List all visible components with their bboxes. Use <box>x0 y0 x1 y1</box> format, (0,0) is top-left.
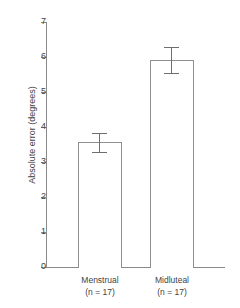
bar-chart: Absolute error (degrees) 7 6 5 4 3 2 1 0 <box>0 0 240 308</box>
y-tick-3: 3 <box>0 162 46 163</box>
y-tick-label-7: 7 <box>10 17 46 26</box>
error-bar-cap-lower-menstrual <box>92 152 107 153</box>
x-axis-line <box>46 267 225 268</box>
y-tick-1: 1 <box>0 232 46 233</box>
y-tick-label-5: 5 <box>10 87 46 96</box>
error-bar-stem-midluteal <box>171 47 172 74</box>
y-tick-2: 2 <box>0 197 46 198</box>
x-axis-label-midluteal-name: Midluteal <box>132 274 212 286</box>
y-tick-label-3: 3 <box>10 157 46 166</box>
y-tick-label-0: 0 <box>10 262 46 271</box>
y-tick-6: 6 <box>0 57 46 58</box>
bar-midluteal <box>150 60 194 268</box>
x-axis-label-menstrual: Menstrual (n = 17) <box>60 274 140 298</box>
y-tick-7: 7 <box>0 22 46 23</box>
x-axis-label-midluteal: Midluteal (n = 17) <box>132 274 212 298</box>
x-axis-label-midluteal-n: (n = 17) <box>132 286 212 298</box>
error-bar-stem-menstrual <box>99 133 100 153</box>
y-tick-label-4: 4 <box>10 122 46 131</box>
y-tick-label-1: 1 <box>10 227 46 236</box>
x-axis-label-menstrual-name: Menstrual <box>60 274 140 286</box>
x-axis-label-menstrual-n: (n = 17) <box>60 286 140 298</box>
error-bar-cap-upper-midluteal <box>164 47 179 48</box>
y-tick-0: 0 <box>0 267 46 268</box>
y-tick-label-6: 6 <box>10 52 46 61</box>
y-tick-4: 4 <box>0 127 46 128</box>
y-tick-5: 5 <box>0 92 46 93</box>
bar-menstrual <box>78 142 122 268</box>
error-bar-cap-lower-midluteal <box>164 73 179 74</box>
y-tick-label-2: 2 <box>10 192 46 201</box>
error-bar-cap-upper-menstrual <box>92 133 107 134</box>
y-axis-line <box>46 22 47 267</box>
